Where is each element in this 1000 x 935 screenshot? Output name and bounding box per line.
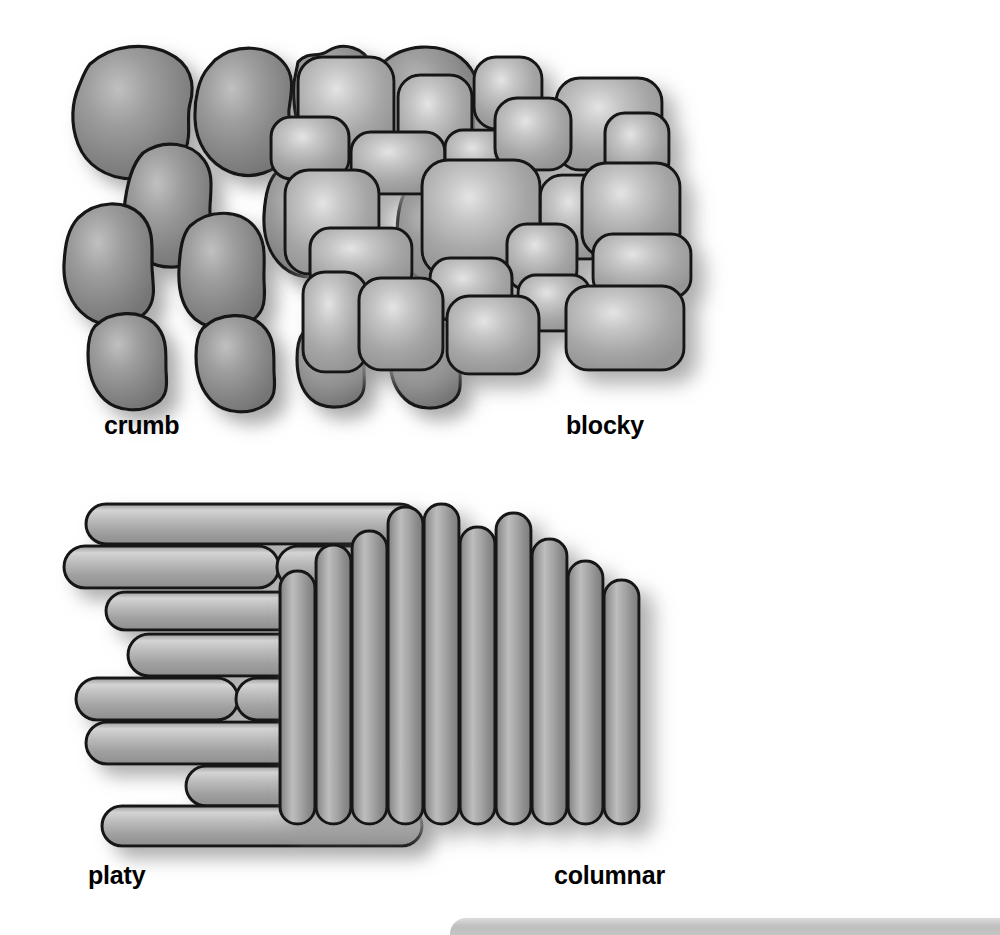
blocky-ped xyxy=(566,286,684,370)
columnar-ped xyxy=(280,571,315,824)
bottom-gray-band xyxy=(450,918,1000,935)
columnar-ped xyxy=(460,527,495,824)
blocky-figure xyxy=(0,20,1000,440)
columnar-ped xyxy=(424,504,459,824)
columnar-ped xyxy=(604,580,639,824)
columnar-ped xyxy=(496,513,531,824)
columnar-ped xyxy=(316,545,351,824)
panel-columnar: columnar xyxy=(500,470,1000,935)
blocky-ped xyxy=(359,278,443,370)
blocky-ped xyxy=(303,272,367,372)
bottom-gray-band-gloss xyxy=(450,918,1000,935)
panel-blocky: blocky xyxy=(500,0,1000,470)
caption-columnar: columnar xyxy=(554,861,665,890)
columnar-ped xyxy=(352,531,387,824)
columnar-ped xyxy=(388,507,423,824)
columnar-ped xyxy=(568,561,603,824)
caption-blocky: blocky xyxy=(566,411,644,440)
blocky-ped xyxy=(447,296,539,374)
columnar-ped xyxy=(532,539,567,824)
columnar-figure xyxy=(0,490,1000,870)
